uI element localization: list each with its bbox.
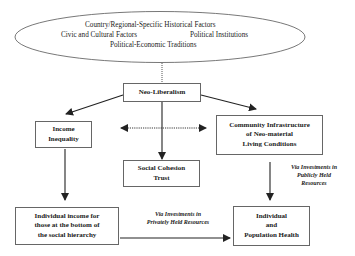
node-community-line2: of Neo-material xyxy=(246,130,293,140)
edge-label-private: Via Investments in Privately Held Resour… xyxy=(128,210,228,226)
arrow-neoliberalism-to-income-inequality xyxy=(66,95,123,114)
node-community-line3: Living Conditions xyxy=(243,140,297,150)
node-health-line1: Individual xyxy=(256,212,287,222)
arrow-neoliberalism-to-community-infrastructure xyxy=(201,95,256,109)
node-social-cohesion-line2: Trust xyxy=(153,174,169,184)
node-individual-income-line2: those at the bottom of xyxy=(35,221,100,231)
ellipse-line-civic: Civic and Cultural Factors xyxy=(61,31,137,41)
node-community-infrastructure: Community Infrastructure of Neo-material… xyxy=(216,115,323,155)
node-health: Individual and Population Health xyxy=(233,206,310,246)
edge-label-public-line2: Publicly Held xyxy=(280,171,348,179)
node-income-inequality-line1: Income xyxy=(52,125,74,135)
node-social-cohesion-line1: Social Cohesion xyxy=(138,164,185,174)
node-social-cohesion: Social Cohesion Trust xyxy=(123,160,200,187)
edge-label-public: Via Investments in Publicly Held Resourc… xyxy=(280,163,348,187)
node-individual-income-line1: Individual income for xyxy=(35,212,100,222)
ellipse-line-institutions: Political Institutions xyxy=(190,31,248,41)
edge-label-private-line1: Via Investments in xyxy=(128,210,228,218)
edge-label-private-line2: Privately Held Resources xyxy=(128,218,228,226)
node-community-line1: Community Infrastructure xyxy=(229,121,310,131)
node-individual-income: Individual income for those at the botto… xyxy=(15,207,119,245)
node-health-line2: and xyxy=(266,221,277,231)
edge-label-public-line1: Via Investments in xyxy=(280,163,348,171)
node-neoliberalism: Neo-Liberalism xyxy=(123,83,201,102)
node-income-inequality-line2: Inequality xyxy=(48,135,79,145)
ellipse-line-traditions: Political-Economic Traditions xyxy=(110,41,196,51)
node-health-line3: Population Health xyxy=(244,231,299,241)
node-income-inequality: Income Inequality xyxy=(35,121,92,148)
edge-label-public-line3: Resources xyxy=(280,179,348,187)
node-individual-income-line3: the social hierarchy xyxy=(38,231,97,241)
ellipse-line-historical: Country/Regional-Specific Historical Fac… xyxy=(85,21,216,31)
context-ellipse xyxy=(15,12,305,63)
node-neoliberalism-label: Neo-Liberalism xyxy=(139,88,186,98)
